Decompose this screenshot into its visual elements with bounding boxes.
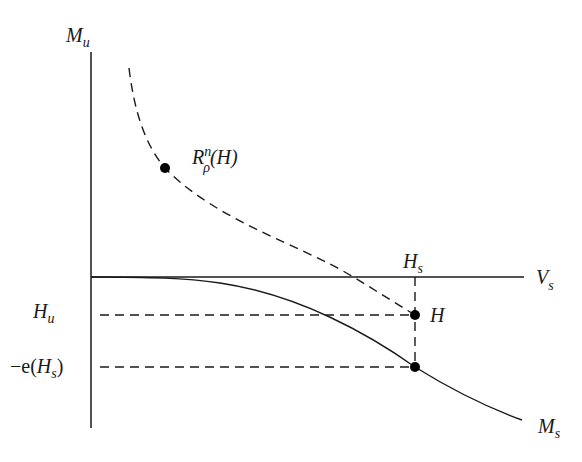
label-Mu: Mu: [65, 24, 90, 50]
label-H: H: [429, 304, 446, 326]
label-Ms: Ms: [537, 415, 561, 441]
label-Vs: Vs: [536, 266, 554, 293]
label-Hs: Hs: [402, 250, 423, 276]
manifold-diagram: Mu Vs Rnρ(H) H Hs Hu −e(Hs) Ms: [0, 0, 582, 462]
point-stable-manifold: [410, 362, 420, 372]
label-Hu: Hu: [32, 300, 54, 326]
stable-manifold-curve: [91, 277, 522, 420]
label-rescaled-H: Rnρ(H): [191, 144, 238, 175]
label-neg-e-Hs: −e(Hs): [10, 355, 63, 381]
point-H: [410, 310, 420, 320]
point-rescaled-H: [160, 163, 170, 173]
